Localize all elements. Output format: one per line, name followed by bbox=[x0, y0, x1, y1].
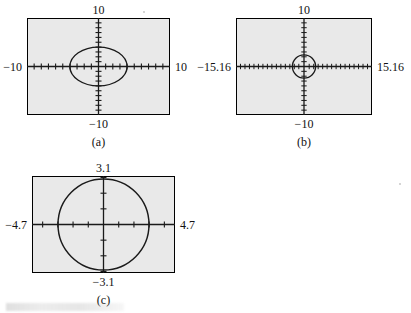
panel-a-label-left: −10 bbox=[3, 61, 22, 73]
panel-b-plot bbox=[236, 18, 372, 115]
panel-c-label-top: 3.1 bbox=[96, 162, 111, 174]
panel-b-caption: (b) bbox=[297, 136, 311, 148]
panel-a: 10 −10 −10 10 (a) bbox=[27, 18, 170, 115]
scan-artifact-bottom bbox=[6, 303, 124, 311]
panel-c-plot bbox=[32, 176, 175, 273]
panel-c: 3.1 −3.1 −4.7 4.7 (c) bbox=[32, 176, 175, 273]
panel-b-label-right: 15.16 bbox=[377, 61, 404, 73]
panel-a-label-bottom: −10 bbox=[89, 118, 108, 130]
panel-a-caption: (a) bbox=[92, 136, 105, 148]
panel-c-label-bottom: −3.1 bbox=[93, 276, 115, 288]
panel-c-label-right: 4.7 bbox=[180, 219, 195, 231]
panel-a-plot bbox=[27, 18, 170, 115]
panel-b: 10 −10 −15.16 15.16 (b) bbox=[236, 18, 372, 115]
panel-b-label-top: 10 bbox=[298, 4, 310, 16]
panel-a-label-right: 10 bbox=[175, 61, 187, 73]
figure-root: 10 −10 −10 10 (a) bbox=[0, 0, 411, 313]
scan-speck-top bbox=[143, 11, 145, 13]
panel-b-label-left: −15.16 bbox=[197, 61, 231, 73]
scan-speck-right bbox=[399, 183, 401, 185]
panel-b-label-bottom: −10 bbox=[295, 118, 314, 130]
panel-a-label-top: 10 bbox=[93, 4, 105, 16]
panel-c-label-left: −4.7 bbox=[5, 219, 27, 231]
